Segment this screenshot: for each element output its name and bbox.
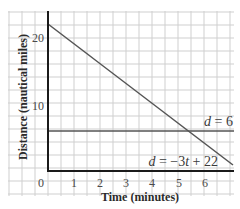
x-tick-3: 3 [123,176,129,190]
y-axis-title: Distance (nautical miles) [16,34,30,160]
line-d-equals-minus-3t-plus-22 [48,24,233,165]
x-tick-2: 2 [97,176,103,190]
distance-time-chart: 20 10 0 1 2 3 4 5 6 Time (minutes) Dista… [0,0,240,209]
x-tick-0: 0 [38,176,44,190]
label-d-equals-minus-3t-plus-22: d = −3t + 22 [148,154,218,169]
x-tick-6: 6 [202,176,208,190]
label-d-equals-6: d = 6 [204,114,233,129]
x-axis-title: Time (minutes) [101,190,179,204]
x-tick-4: 4 [149,176,155,190]
y-tick-20: 20 [32,31,44,45]
x-tick-1: 1 [71,176,77,190]
y-tick-10: 10 [32,99,44,113]
x-tick-5: 5 [176,176,182,190]
